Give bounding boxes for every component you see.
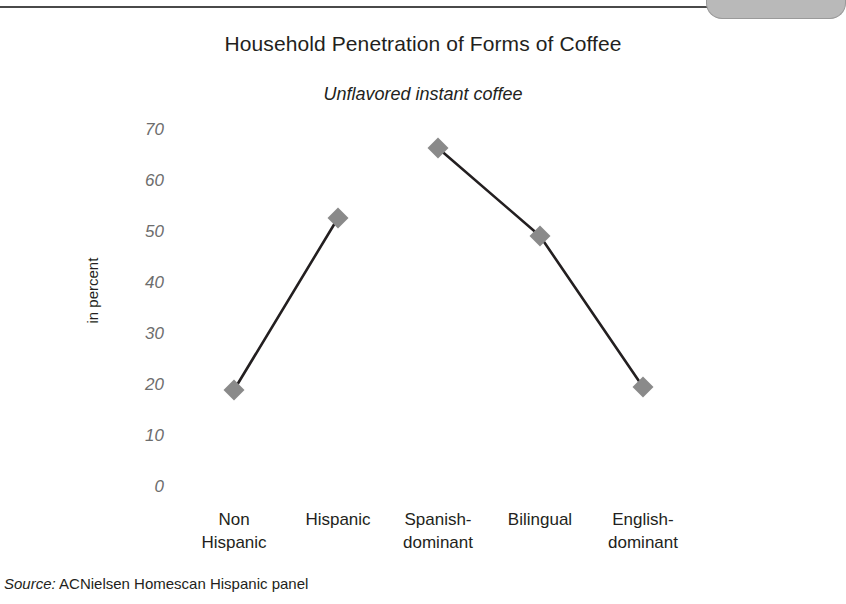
- source-note-text: ACNielsen Homescan Hispanic panel: [56, 575, 309, 592]
- data-point-marker-hispanic: [328, 208, 349, 229]
- data-point-marker-non-hispanic-shape: [224, 380, 245, 401]
- series-line-segment-1: [234, 218, 338, 390]
- y-tick-label-30: 30: [118, 324, 164, 344]
- y-tick-label-70: 70: [118, 120, 164, 140]
- chart-subtitle: Unflavored instant coffee: [0, 84, 846, 105]
- data-point-marker-english-dominant: [633, 377, 654, 398]
- y-tick-label-20: 20: [118, 375, 164, 395]
- y-tick-label-60: 60: [118, 171, 164, 191]
- x-tick-label-line-2: dominant: [373, 531, 503, 554]
- page-corner-tab: [706, 0, 846, 19]
- data-point-marker-spanish-dominant: [428, 138, 449, 159]
- data-point-marker-bilingual: [530, 226, 551, 247]
- y-tick-label-40: 40: [118, 273, 164, 293]
- x-tick-label-line-2: Hispanic: [169, 531, 299, 554]
- top-divider-rule: [0, 6, 762, 8]
- y-tick-label-10: 10: [118, 426, 164, 446]
- source-note: Source: ACNielsen Homescan Hispanic pane…: [4, 575, 308, 592]
- y-axis-title: in percent: [84, 264, 101, 324]
- x-tick-label-line-2: dominant: [578, 531, 708, 554]
- source-note-label: Source:: [4, 575, 56, 592]
- y-tick-label-0: 0: [118, 477, 164, 497]
- x-tick-label-line-1: English-: [578, 508, 708, 531]
- y-tick-label-50: 50: [118, 222, 164, 242]
- series-line-segment-2: [438, 148, 643, 387]
- x-tick-label-english-dominant: English- dominant: [578, 508, 708, 554]
- chart-title: Household Penetration of Forms of Coffee: [0, 32, 846, 56]
